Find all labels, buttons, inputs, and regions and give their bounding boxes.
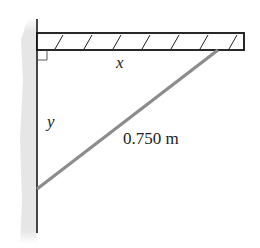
- strut: [37, 50, 218, 189]
- beam-strut-diagram: [0, 0, 260, 248]
- label-strut-length: 0.750 m: [123, 130, 179, 147]
- wall-shading: [20, 18, 37, 244]
- label-y: y: [47, 113, 55, 130]
- right-angle-marker: [37, 50, 47, 60]
- beam: [37, 33, 244, 50]
- label-x: x: [116, 54, 124, 71]
